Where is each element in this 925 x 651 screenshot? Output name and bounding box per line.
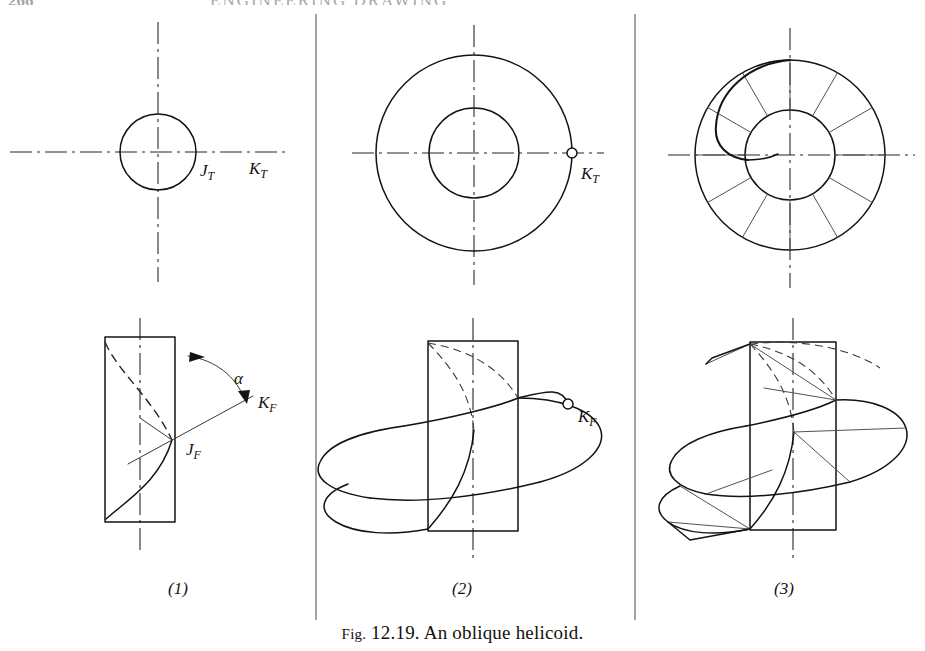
label-alpha: α: [234, 369, 244, 388]
radial-element: [813, 73, 838, 116]
point-k-top-marker: [567, 148, 577, 158]
ruling-element: [680, 486, 750, 529]
outer-helix-lower-sweep: [324, 484, 428, 533]
surface-edge-arc: [716, 60, 790, 160]
ruling-element: [794, 432, 850, 482]
outer-helix-hidden-upper: [750, 342, 880, 368]
panel-1-top-view: JT KT: [10, 22, 290, 282]
label-k-top: KT: [248, 159, 268, 181]
inner-helix-visible: [428, 430, 474, 529]
panel-number-2: (2): [452, 579, 472, 598]
running-head-title: ENGINEERING DRAWING: [210, 0, 448, 5]
caption-prefix: Fig.: [342, 626, 367, 642]
label-k-front: KF: [577, 407, 597, 429]
radial-element: [743, 73, 768, 116]
outer-helix-left: [318, 426, 404, 498]
figure-plate: 266 ENGINEERING DRAWING .obj {fill:none;…: [0, 0, 925, 651]
caption-text: An oblique helicoid.: [424, 622, 584, 643]
point-k-front-marker: [563, 399, 573, 409]
figure-drawing: .obj {fill:none;stroke:#16130f;stroke-wi…: [0, 0, 925, 651]
radial-element: [708, 108, 751, 133]
outer-helix-right: [836, 400, 907, 482]
figure-caption: Fig. 12.19. An oblique helicoid.: [0, 622, 925, 644]
label-j-top: JT: [200, 161, 216, 183]
element-reference-leg: [140, 418, 172, 440]
panel-number-3: (3): [774, 579, 794, 598]
helix-visible-lower: [106, 440, 172, 519]
surface-edge-bottom: [668, 522, 750, 540]
angle-arrow-end: [238, 390, 250, 404]
panel-2-top-view: KT: [352, 25, 604, 285]
ruling-element: [706, 470, 772, 494]
radial-element: [813, 194, 838, 237]
inner-helix-visible: [750, 432, 794, 529]
angle-arrow-start: [189, 352, 205, 362]
panel-dividers: [316, 14, 635, 620]
label-j-front: JF: [186, 440, 202, 462]
panel-number-1: (1): [168, 579, 188, 598]
page-number: 266: [8, 0, 34, 5]
radial-element: [829, 108, 872, 133]
label-k-top: KT: [580, 164, 600, 186]
outer-helix-top-front: [404, 398, 518, 426]
panel-2-front-view: KF (2): [318, 318, 601, 598]
ruling-element: [794, 428, 906, 432]
caption-number: 12.19.: [371, 622, 420, 643]
helix-hidden-upper: [105, 342, 172, 440]
panel-3-front-view: [659, 318, 907, 562]
panel-3-top-view: (3): [668, 28, 915, 598]
inner-helix-hidden: [750, 344, 794, 432]
radial-element: [743, 194, 768, 237]
radial-element: [708, 178, 751, 203]
panel-1-front-view: α KF JF (1): [105, 318, 277, 598]
radial-element: [829, 178, 872, 203]
label-k-front: KF: [257, 393, 277, 415]
running-head: 266 ENGINEERING DRAWING: [0, 0, 925, 5]
ruling-element: [764, 388, 836, 400]
